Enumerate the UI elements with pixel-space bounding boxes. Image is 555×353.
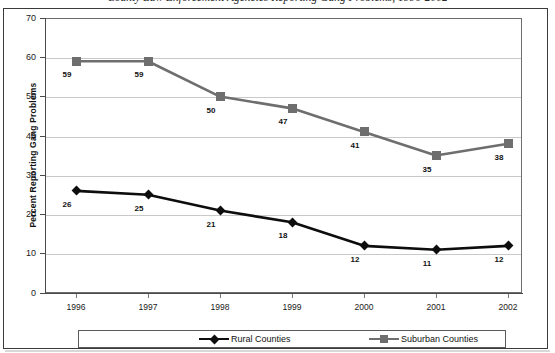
suburban-marker-icon	[369, 334, 399, 344]
x-tick-label-1998: 1998	[200, 302, 240, 312]
suburban-marker	[288, 104, 297, 113]
rural-point-label: 12	[487, 255, 511, 264]
plot-area	[45, 18, 522, 293]
chart-title-text: County Law Enforcement Agencies Reportin…	[0, 0, 555, 3]
x-tick-label-1999: 1999	[272, 302, 312, 312]
y-tick-40	[40, 136, 45, 137]
y-tick-label-0: 0	[31, 289, 36, 298]
rural-point-label: 25	[127, 204, 151, 213]
gridline-10	[46, 254, 521, 255]
suburban-marker	[360, 127, 369, 136]
x-axis-line	[45, 293, 523, 294]
legend-label-suburban: Suburban Counties	[401, 334, 478, 344]
suburban-marker	[144, 57, 153, 66]
gridline-50	[46, 97, 521, 98]
y-axis-title: Percent Reporting Gang Problems	[28, 45, 38, 265]
x-tick-1996	[76, 294, 77, 298]
x-tick-1998	[220, 294, 221, 298]
legend-item-rural[interactable]: Rural Counties	[199, 334, 291, 344]
x-tick-2001	[436, 294, 437, 298]
rural-marker-icon	[199, 334, 229, 344]
y-tick-60	[40, 57, 45, 58]
suburban-point-label: 38	[487, 153, 511, 162]
rural-point-label: 18	[271, 231, 295, 240]
gridline-60	[46, 58, 521, 59]
suburban-point-label: 50	[199, 106, 223, 115]
y-tick-30	[40, 175, 45, 176]
legend-label-rural: Rural Counties	[231, 334, 291, 344]
x-tick-2000	[364, 294, 365, 298]
y-axis-line	[45, 18, 46, 294]
x-tick-2002	[508, 294, 509, 298]
y-tick-0	[40, 293, 45, 294]
rural-point-label: 26	[55, 200, 79, 209]
legend-item-suburban[interactable]: Suburban Counties	[369, 334, 478, 344]
y-tick-label-70: 70	[26, 14, 36, 23]
suburban-point-label: 47	[271, 117, 295, 126]
gridline-20	[46, 215, 521, 216]
gridline-30	[46, 176, 521, 177]
y-tick-20	[40, 214, 45, 215]
rural-point-label: 11	[415, 259, 439, 268]
suburban-marker	[432, 151, 441, 160]
rural-point-label: 21	[199, 220, 223, 229]
suburban-point-label: 59	[55, 70, 79, 79]
x-tick-label-1997: 1997	[128, 302, 168, 312]
suburban-point-label: 41	[343, 141, 367, 150]
outer-frame-shadow	[5, 350, 550, 352]
x-tick-label-1996: 1996	[56, 302, 96, 312]
chart-screenshot: County Law Enforcement Agencies Reportin…	[0, 0, 555, 353]
suburban-marker	[216, 92, 225, 101]
x-tick-1999	[292, 294, 293, 298]
x-tick-1997	[148, 294, 149, 298]
x-tick-label-2000: 2000	[344, 302, 384, 312]
suburban-marker	[504, 139, 513, 148]
gridline-40	[46, 137, 521, 138]
rural-point-label: 12	[343, 255, 367, 264]
y-tick-10	[40, 253, 45, 254]
suburban-marker	[72, 57, 81, 66]
x-tick-label-2002: 2002	[488, 302, 528, 312]
y-tick-50	[40, 96, 45, 97]
y-tick-70	[40, 18, 45, 19]
x-tick-label-2001: 2001	[416, 302, 456, 312]
legend: Rural Counties Suburban Counties	[78, 330, 506, 348]
suburban-point-label: 35	[415, 165, 439, 174]
suburban-point-label: 59	[127, 70, 151, 79]
